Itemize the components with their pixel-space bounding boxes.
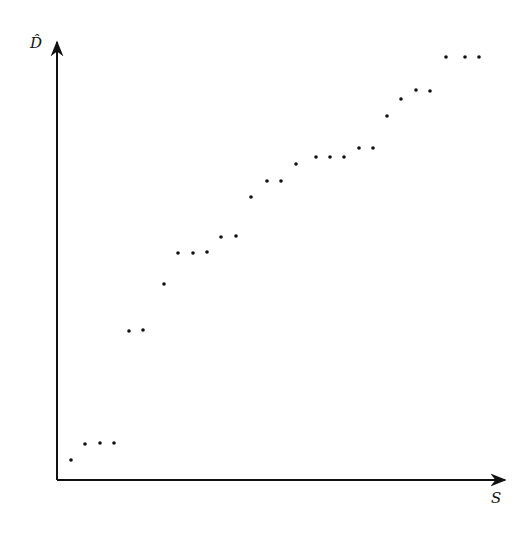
data-point [463, 55, 467, 59]
data-point [444, 55, 448, 59]
data-point [357, 146, 361, 150]
data-point [371, 146, 375, 150]
data-point [294, 162, 298, 166]
data-point [191, 251, 195, 255]
data-point [205, 250, 209, 254]
data-point [399, 97, 403, 101]
data-point [265, 179, 269, 183]
axes [57, 42, 505, 480]
data-point [249, 195, 253, 199]
scatter-chart: D̂ S [0, 0, 532, 534]
x-axis-label: S [491, 489, 501, 507]
data-point [69, 458, 73, 462]
data-point [414, 88, 418, 92]
data-point [428, 89, 432, 93]
data-point [328, 155, 332, 159]
data-point [83, 442, 87, 446]
data-point [279, 179, 283, 183]
data-points [69, 55, 481, 462]
data-point [477, 55, 481, 59]
data-point [176, 251, 180, 255]
data-point [127, 329, 131, 333]
data-point [342, 155, 346, 159]
data-point [98, 441, 102, 445]
data-point [112, 441, 116, 445]
data-point [219, 235, 223, 239]
data-point [314, 155, 318, 159]
data-point [141, 328, 145, 332]
data-point [385, 114, 389, 118]
data-point [234, 234, 238, 238]
y-axis-label: D̂ [29, 34, 42, 52]
data-point [162, 282, 166, 286]
